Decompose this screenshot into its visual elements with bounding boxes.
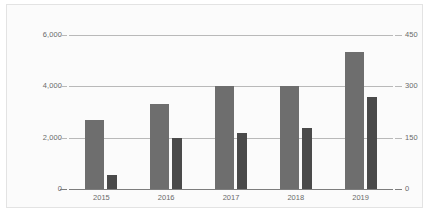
bar-group (85, 35, 117, 189)
bar-series-1 (85, 120, 104, 189)
bar-series-1 (215, 86, 234, 189)
left-axis-tick-mark (60, 86, 67, 87)
left-axis-tick-mark (60, 189, 67, 190)
chart-plot-area: 02,0004,0006,000 0150300450 201520162017… (69, 35, 393, 189)
right-axis-tick-label: 150 (405, 134, 418, 142)
x-axis-category-label: 2017 (211, 194, 251, 202)
right-axis-tick-mark (395, 189, 402, 190)
right-axis-tick-mark (395, 86, 402, 87)
bar-series-1 (345, 52, 364, 189)
left-axis-tick-mark (60, 138, 67, 139)
bar-series-2 (172, 138, 182, 189)
x-axis-category-label: 2015 (81, 194, 121, 202)
x-axis-category-label: 2016 (146, 194, 186, 202)
chart-container: 02,0004,0006,000 0150300450 201520162017… (6, 4, 423, 208)
bar-series-1 (150, 104, 169, 189)
bar-series-2 (237, 133, 247, 189)
right-axis-tick-label: 450 (405, 31, 418, 39)
bar-group (150, 35, 182, 189)
gridline (69, 189, 393, 190)
x-axis-category-label: 2019 (341, 194, 381, 202)
chart-bars (69, 35, 393, 189)
x-axis-category-label: 2018 (276, 194, 316, 202)
right-axis-tick-mark (395, 138, 402, 139)
bar-series-2 (107, 175, 117, 189)
bar-series-1 (280, 86, 299, 189)
right-axis-tick-label: 300 (405, 82, 418, 90)
left-axis-tick-mark (60, 35, 67, 36)
bar-group (280, 35, 312, 189)
bar-group (345, 35, 377, 189)
right-axis-tick-label: 0 (405, 185, 409, 193)
right-axis-tick-mark (395, 35, 402, 36)
bar-group (215, 35, 247, 189)
bar-series-2 (302, 128, 312, 189)
bar-series-2 (367, 97, 377, 189)
